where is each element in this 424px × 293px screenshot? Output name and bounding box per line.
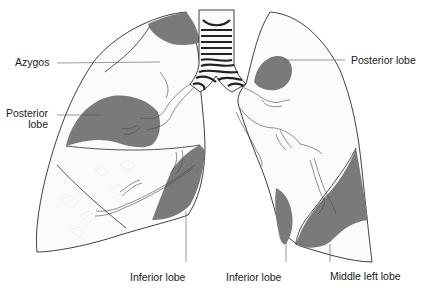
label-posterior-line2: lobe [6, 119, 48, 130]
label-inferior-lobe-left-lung: Inferior lobe [226, 272, 281, 283]
label-middle-left-lobe: Middle left lobe [330, 271, 401, 282]
lung-diagram [0, 0, 424, 293]
label-posterior-lobe-right-lung: Posterior lobe [6, 108, 48, 130]
left-lung [236, 12, 372, 262]
label-azygos: Azygos [15, 57, 49, 68]
label-inferior-lobe-right-lung: Inferior lobe [130, 272, 185, 283]
right-lung [36, 12, 205, 252]
label-posterior-lobe-left-lung: Posterior lobe [351, 55, 416, 66]
